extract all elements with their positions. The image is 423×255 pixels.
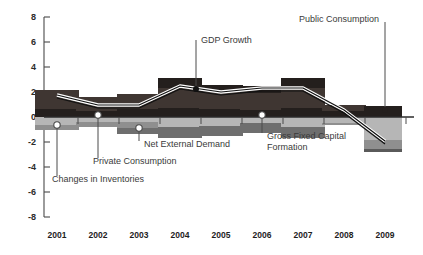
year-label-2004: 2004 (171, 230, 190, 240)
bar-segment-gfcf-2007 (281, 117, 325, 127)
marker-public-consumption (382, 107, 388, 113)
marker-private-consumption (95, 112, 101, 118)
y-tick-8: 8 (31, 12, 36, 22)
chart-container: 8 6 4 2 0 -2 -4 -6 -8 (0, 0, 423, 255)
year-label-2006: 2006 (253, 230, 272, 240)
bar-segment-public-2004 (158, 108, 202, 117)
y-tick-6: 6 (31, 37, 36, 47)
year-label-2008: 2008 (335, 230, 354, 240)
marker-gross-fixed-capital (259, 112, 265, 118)
y-tick-4: 4 (31, 62, 36, 72)
marker-gdp-growth (193, 86, 199, 92)
bar-segment-gfcf-2004 (158, 117, 202, 127)
bar-segment-public-2007 (281, 108, 325, 117)
bar-segment-public-2003 (117, 109, 161, 117)
annotation-gdp-growth: GDP Growth (201, 35, 252, 45)
y-tick-neg4: -4 (28, 162, 36, 172)
annotation-net-external-demand: Net External Demand (144, 139, 230, 149)
annotation-changes-in-inventories: Changes in Inventories (52, 174, 145, 184)
y-tick-neg2: -2 (28, 137, 36, 147)
year-label-2007: 2007 (294, 230, 313, 240)
bar-segment-net-external-2009 (364, 149, 402, 152)
year-label-2002: 2002 (89, 230, 108, 240)
year-label-2003: 2003 (130, 230, 149, 240)
year-label-2005: 2005 (212, 230, 231, 240)
marker-changes-in-inventories (54, 122, 60, 128)
bar-segment-gfcf-2003 (117, 117, 161, 122)
bar-segment-public-2001 (35, 109, 79, 117)
year-label-2001: 2001 (48, 230, 67, 240)
annotation-public-consumption: Public Consumption (299, 14, 379, 24)
annotation-gross-fixed-capital-line1: Gross Fixed Capital (267, 131, 346, 141)
y-tick-neg8: -8 (28, 212, 36, 222)
bar-segment-inventories-2004 (158, 127, 202, 138)
marker-net-external-demand (136, 125, 142, 131)
bar-segment-inventories-2005 (199, 126, 243, 136)
annotation-private-consumption: Private Consumption (93, 156, 177, 166)
bar-segment-public-2005 (199, 109, 243, 117)
year-label-2009: 2009 (376, 230, 395, 240)
annotation-gross-fixed-capital-line2: Formation (267, 142, 308, 152)
y-tick-neg6: -6 (28, 187, 36, 197)
gdp-growth-contributions-chart: 8 6 4 2 0 -2 -4 -6 -8 (0, 0, 423, 255)
bar-segment-gfcf-2005 (199, 117, 243, 126)
x-axis-year-labels: 2001 2002 2003 2004 2005 2006 2007 2008 … (48, 230, 395, 240)
bar-segment-private-2006 (240, 93, 284, 110)
